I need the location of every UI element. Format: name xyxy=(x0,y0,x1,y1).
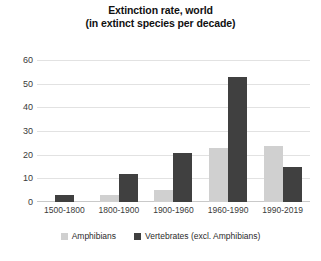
y-tick-label-50: 50 xyxy=(0,79,33,88)
y-tick-label-20: 20 xyxy=(0,150,33,159)
bar-vertebrates-1500-1800 xyxy=(55,195,74,202)
x-tick-label-1800-1900: 1800-1900 xyxy=(92,205,147,215)
bar-vertebrates-1990-2019 xyxy=(283,167,302,202)
y-tick-label-0: 0 xyxy=(0,198,33,207)
bar-groups xyxy=(37,60,310,202)
legend-swatch-icon-amphibians xyxy=(61,233,68,240)
bar-vertebrates-1960-1990 xyxy=(228,77,247,202)
y-tick-label-10: 10 xyxy=(0,174,33,183)
bar-group-1990-2019 xyxy=(255,60,310,202)
bar-group-1800-1900 xyxy=(92,60,147,202)
chart-legend: Amphibians Vertebrates (excl. Amphibians… xyxy=(0,231,321,241)
x-axis-labels: 1500-1800 1800-1900 1900-1960 1960-1990 … xyxy=(37,205,310,215)
bar-vertebrates-1900-1960 xyxy=(173,153,192,202)
bar-amphibians-1960-1990 xyxy=(209,148,228,202)
chart-title: Extinction rate, world (in extinct speci… xyxy=(0,4,321,30)
x-tick-label-1900-1960: 1900-1960 xyxy=(146,205,201,215)
y-tick-label-30: 30 xyxy=(0,127,33,136)
legend-item-vertebrates: Vertebrates (excl. Amphibians) xyxy=(134,231,260,241)
legend-label-amphibians: Amphibians xyxy=(72,231,116,241)
x-tick-label-1960-1990: 1960-1990 xyxy=(201,205,256,215)
y-axis-labels: 60 50 40 30 20 10 0 xyxy=(0,60,33,202)
x-tick-label-1990-2019: 1990-2019 xyxy=(255,205,310,215)
bar-amphibians-1800-1900 xyxy=(100,195,119,202)
bar-group-1960-1990 xyxy=(201,60,256,202)
legend-swatch-icon-vertebrates xyxy=(134,233,141,240)
legend-label-vertebrates: Vertebrates (excl. Amphibians) xyxy=(145,231,260,241)
x-tick-label-1500-1800: 1500-1800 xyxy=(37,205,92,215)
bar-group-1900-1960 xyxy=(146,60,201,202)
plot-area xyxy=(37,60,310,202)
bar-chart: Extinction rate, world (in extinct speci… xyxy=(0,0,321,261)
bar-vertebrates-1800-1900 xyxy=(119,174,138,202)
y-tick-label-40: 40 xyxy=(0,103,33,112)
chart-title-line-1: Extinction rate, world xyxy=(0,4,321,17)
bar-group-1500-1800 xyxy=(37,60,92,202)
legend-item-amphibians: Amphibians xyxy=(61,231,116,241)
bar-amphibians-1990-2019 xyxy=(264,146,283,202)
bar-amphibians-1900-1960 xyxy=(154,190,173,202)
y-tick-label-60: 60 xyxy=(0,56,33,65)
chart-title-line-2: (in extinct species per decade) xyxy=(0,17,321,30)
